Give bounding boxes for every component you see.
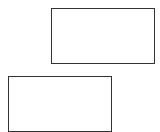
rectangle-top-right: [51, 8, 155, 64]
rectangle-bottom-left: [8, 76, 112, 132]
